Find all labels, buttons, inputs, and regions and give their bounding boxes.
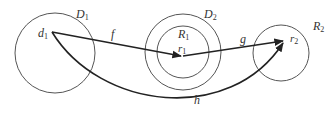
label-r1: r1 xyxy=(178,42,186,56)
label-d1: d1 xyxy=(38,26,48,41)
arrow-h xyxy=(52,32,283,98)
arrow-g xyxy=(183,41,283,56)
label-f: f xyxy=(111,27,116,41)
arrow-f xyxy=(52,32,181,56)
label-g: g xyxy=(240,32,246,46)
circle-D1 xyxy=(15,13,95,93)
label-R2: R2 xyxy=(312,19,324,34)
label-r2: r2 xyxy=(290,32,298,46)
label-R1: R1 xyxy=(177,27,189,42)
circle-R2 xyxy=(253,25,309,81)
label-D1: D1 xyxy=(75,7,89,22)
function-composition-diagram: d1 D1 f D2 R1 r1 g r2 R2 h xyxy=(0,0,336,121)
label-D2: D2 xyxy=(203,7,217,22)
label-h: h xyxy=(194,93,200,107)
